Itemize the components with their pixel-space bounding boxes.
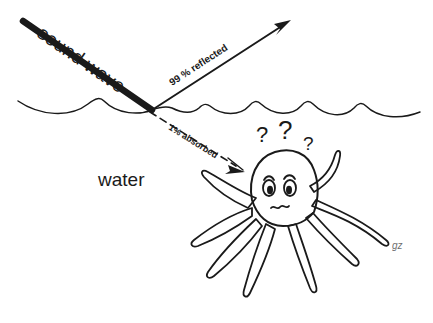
sound-wave-label: sound wave <box>34 22 129 97</box>
artist-signature: gz <box>392 240 403 251</box>
diagram-canvas: gz sound wave 99 % reflected 1% absorbed… <box>0 0 433 323</box>
water-surface-line <box>18 99 420 117</box>
water-label: water <box>97 169 145 190</box>
sound-wave-diagram: gz sound wave 99 % reflected 1% absorbed… <box>0 0 433 323</box>
confused-octopus <box>191 150 388 296</box>
question-mark-middle: ? <box>278 115 292 145</box>
question-mark-left: ? <box>256 122 268 147</box>
reflected-ray <box>152 20 291 110</box>
question-mark-right: ? <box>303 133 314 154</box>
absorbed-label: 1% absorbed <box>167 122 220 160</box>
signature-text: gz <box>392 240 403 251</box>
